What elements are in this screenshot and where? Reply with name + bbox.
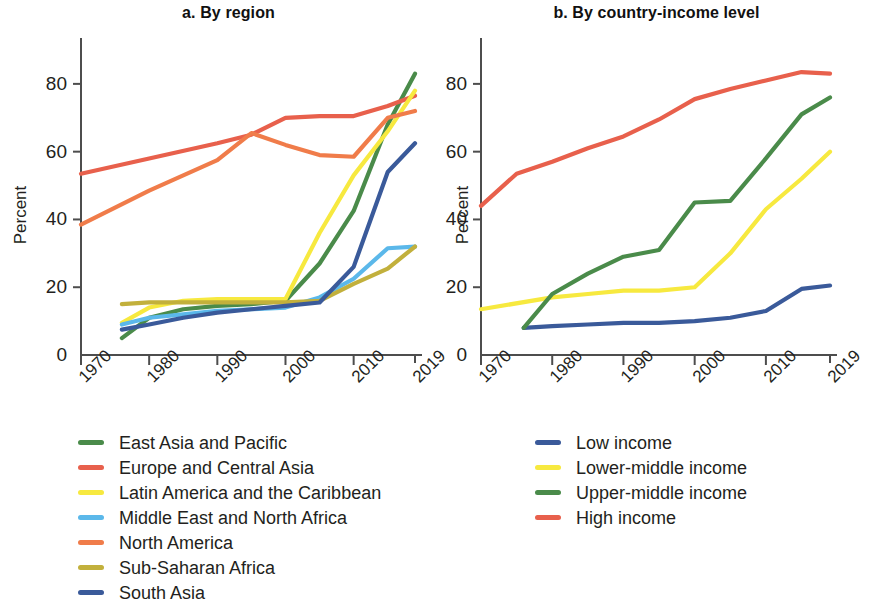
series-line [81,111,415,225]
legend-color-swatch-icon [78,440,104,445]
legend-color-swatch-icon [78,465,104,470]
y-tick-label: 40 [28,208,67,230]
y-tick-label: 20 [429,276,467,298]
legend-color-swatch-icon [535,440,561,445]
series-line [481,152,830,310]
legend-item-label: Upper-middle income [576,484,747,502]
y-tick-label: 80 [429,73,467,95]
y-tick-label: 80 [28,73,67,95]
legend-item-label: Sub-Saharan Africa [119,559,275,577]
legend-item[interactable]: Sub-Saharan Africa [0,555,435,580]
legend-item[interactable]: North America [0,530,435,555]
y-tick-label: 0 [429,344,467,366]
legend-color-swatch-icon [535,515,561,520]
legend-color-swatch-icon [78,540,104,545]
legend-item[interactable]: Latin America and the Caribbean [0,480,435,505]
legend-color-swatch-icon [78,515,104,520]
panel-by-country-income-level: b. By country-income level Percent 02040… [435,0,870,615]
y-tick-label: 60 [429,141,467,163]
panel-a-plot-area: Percent 02040608019701980199020002010201… [0,0,435,430]
legend-color-swatch-icon [535,465,561,470]
legend-item-label: Middle East and North Africa [119,509,347,527]
legend-item-label: East Asia and Pacific [119,434,287,452]
legend-item[interactable]: Lower-middle income [435,455,870,480]
legend-item[interactable]: High income [435,505,870,530]
legend-item-label: North America [119,534,233,552]
legend-item[interactable]: Upper-middle income [435,480,870,505]
legend-item-label: Latin America and the Caribbean [119,484,381,502]
legend-item[interactable]: Low income [435,430,870,455]
series-line [481,72,830,206]
two-panel-line-chart-figure: a. By region Percent 0204060801970198019… [0,0,871,615]
legend-item[interactable]: Europe and Central Asia [0,455,435,480]
y-tick-label: 0 [28,344,67,366]
legend-item[interactable]: South Asia [0,580,435,605]
panel-b-plot-area: Percent 02040608019701980199020002010201… [435,0,870,430]
legend-item-label: Low income [576,434,672,452]
series-line [122,247,415,305]
y-tick-label: 20 [28,276,67,298]
y-tick-label: 40 [429,208,467,230]
legend-item[interactable]: Middle East and North Africa [0,505,435,530]
series-line [524,97,830,327]
legend-color-swatch-icon [535,490,561,495]
legend-item-label: Lower-middle income [576,459,747,477]
legend-color-swatch-icon [78,590,104,595]
y-tick-label: 60 [28,141,67,163]
legend-color-swatch-icon [78,490,104,495]
panel-by-region: a. By region Percent 0204060801970198019… [0,0,435,615]
legend-item-label: High income [576,509,676,527]
legend-item[interactable]: East Asia and Pacific [0,430,435,455]
legend-item-label: South Asia [119,584,205,602]
panel-b-legend: Low incomeLower-middle incomeUpper-middl… [435,430,870,530]
legend-color-swatch-icon [78,565,104,570]
series-line [524,286,830,328]
legend-item-label: Europe and Central Asia [119,459,314,477]
panel-a-legend: East Asia and PacificEurope and Central … [0,430,435,605]
